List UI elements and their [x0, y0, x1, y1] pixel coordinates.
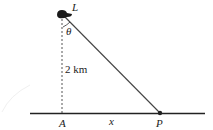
label-P: P	[155, 117, 163, 129]
label-L: L	[71, 1, 78, 13]
lighthouse-icon	[57, 10, 72, 18]
diagram-canvas: L θ 2 km A x P	[0, 0, 213, 130]
label-distance: 2 km	[65, 63, 88, 75]
label-A: A	[58, 117, 66, 129]
faint-arc	[2, 85, 30, 112]
point-p-marker	[158, 111, 162, 115]
label-x: x	[108, 115, 114, 127]
label-theta: θ	[66, 25, 72, 37]
lighthouse-diagram: L θ 2 km A x P	[0, 0, 213, 130]
